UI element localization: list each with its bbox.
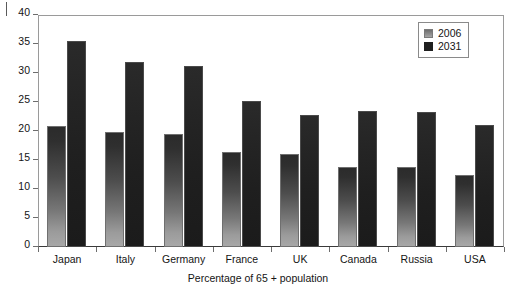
bar-2006-usa	[455, 175, 474, 247]
bar-2031-japan	[67, 41, 86, 247]
x-axis-title: Percentage of 65 + population	[0, 272, 516, 284]
y-axis-tick-label: 20	[18, 123, 30, 134]
y-axis-tick-label: 25	[18, 94, 30, 105]
y-axis-tick-label: 40	[18, 7, 30, 18]
bar-group	[155, 15, 213, 247]
x-axis-tick	[96, 247, 97, 252]
bar-2031-canada	[358, 111, 377, 247]
y-axis-tick-label: 0	[24, 239, 30, 250]
bar-2006-france	[222, 152, 241, 247]
legend-entry-label: 2006	[438, 28, 461, 39]
bar-group	[213, 15, 271, 247]
y-axis-tick-label: 30	[18, 65, 30, 76]
x-axis-tick	[213, 247, 214, 252]
y-axis-tick-label: 10	[18, 181, 30, 192]
legend-entry: 2031	[424, 40, 461, 53]
bar-group	[329, 15, 387, 247]
bar-2006-italy	[105, 132, 124, 247]
y-axis-tick-label: 35	[18, 36, 30, 47]
bar-2006-canada	[338, 167, 357, 247]
bar-group	[96, 15, 154, 247]
bar-2031-usa	[475, 125, 494, 247]
bar-2006-germany	[164, 134, 183, 247]
legend: 2006 2031	[418, 22, 469, 58]
x-axis-tick	[446, 247, 447, 252]
legend-entry-label: 2031	[438, 41, 461, 52]
bar-chart: 0510152025303540 JapanItalyGermanyFrance…	[0, 0, 516, 299]
bar-2031-france	[242, 101, 261, 247]
bar-2006-russia	[397, 167, 416, 247]
x-axis-tick	[329, 247, 330, 252]
x-axis-tick	[155, 247, 156, 252]
x-axis-tick	[271, 247, 272, 252]
bar-group	[38, 15, 96, 247]
bar-2031-germany	[184, 66, 203, 247]
page-corner-mark	[6, 2, 7, 16]
dark-square-icon	[424, 42, 433, 51]
bar-group	[271, 15, 329, 247]
bar-2031-russia	[417, 112, 436, 247]
bar-2006-uk	[280, 154, 299, 247]
bar-2031-uk	[300, 115, 319, 247]
y-axis-tick-label: 5	[24, 210, 30, 221]
legend-entry: 2006	[424, 27, 461, 40]
x-axis-tick	[38, 247, 39, 252]
x-axis-category-label: USA	[430, 253, 516, 265]
x-axis-tick	[504, 247, 505, 252]
x-axis-tick	[388, 247, 389, 252]
bar-2006-japan	[47, 126, 66, 247]
y-axis-tick-label: 15	[18, 152, 30, 163]
light-gray-square-icon	[424, 29, 433, 38]
bar-2031-italy	[125, 62, 144, 247]
